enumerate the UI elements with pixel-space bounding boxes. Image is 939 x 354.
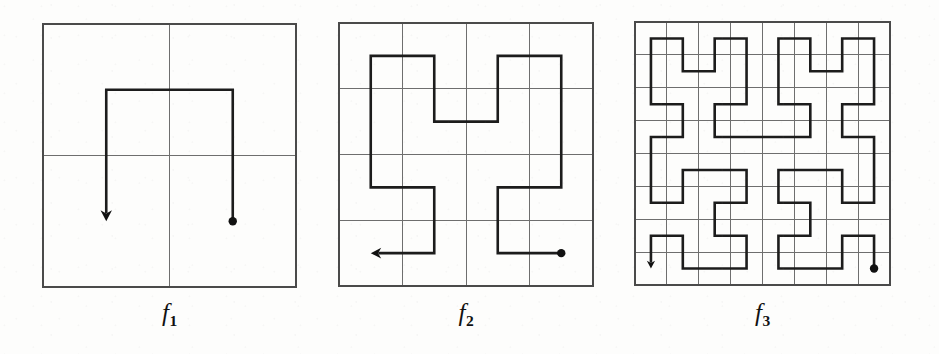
panel-f3-canvas [0, 0, 939, 300]
panel-f3-start-dot [870, 264, 878, 272]
panel-f3-grid [635, 22, 890, 285]
panel-f3-label: f3 [635, 300, 890, 325]
hilbert-curve-figure: f1 f2 f3 [0, 0, 939, 354]
panel-f3: f3 [0, 0, 939, 354]
panel-f3-label-subscript: 3 [762, 312, 770, 329]
